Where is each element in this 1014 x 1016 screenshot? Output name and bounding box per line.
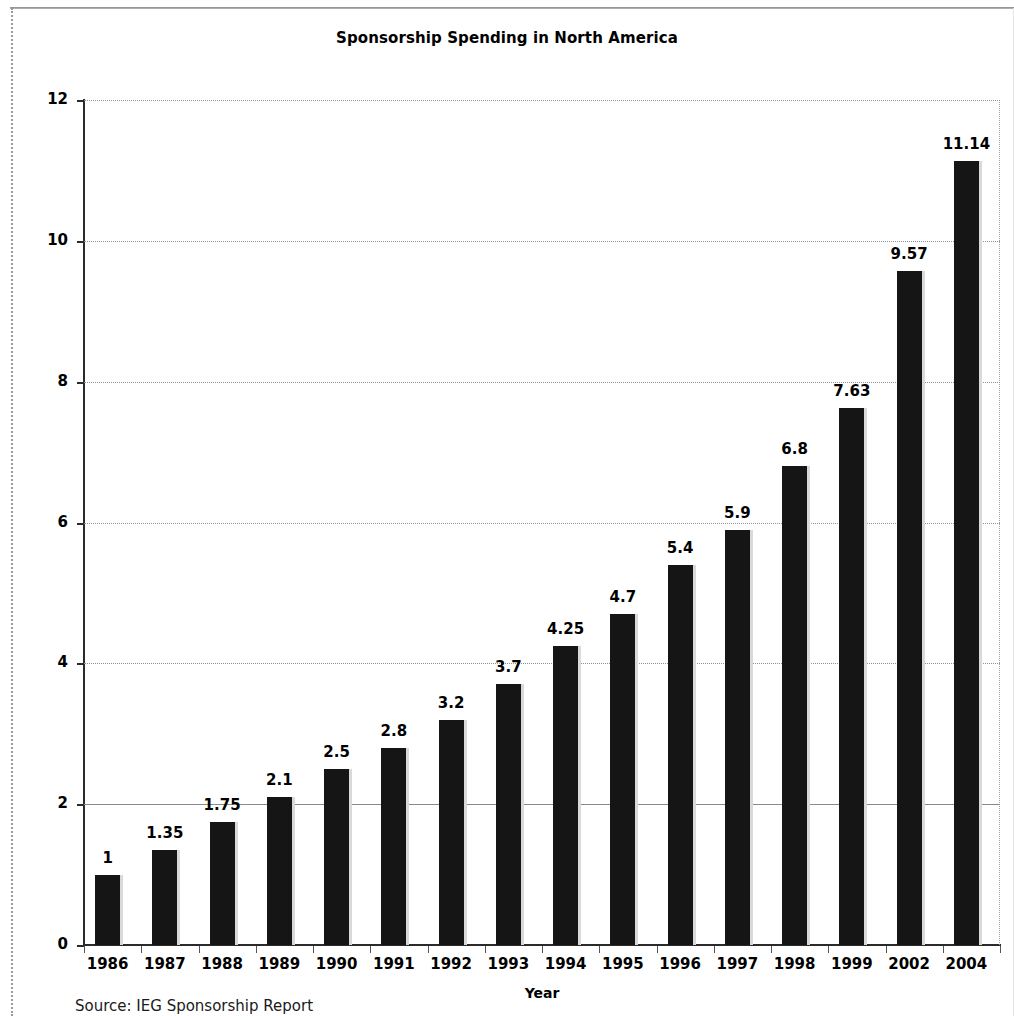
x-axis-tick-mark [199,946,200,953]
bar [725,530,750,945]
bar-value-label: 3.7 [468,658,548,676]
x-axis-tick-mark [886,946,887,953]
x-axis-tick-mark [84,946,85,953]
x-axis-tick-mark [542,946,543,953]
y-axis-tick-label: 4 [16,653,68,671]
bar-value-label: 6.8 [755,440,835,458]
bar [897,271,922,945]
source-note: Source: IEG Sponsorship Report [75,997,313,1015]
bar-value-label: 2.8 [354,722,434,740]
x-axis-tick-mark [428,946,429,953]
x-axis-tick-mark [256,946,257,953]
y-axis-tick-mark [77,523,84,525]
bar-value-label: 1.35 [125,824,205,842]
bar-value-label: 5.4 [640,539,720,557]
bar [668,565,693,945]
bar-value-label: 1 [68,849,148,867]
y-axis-tick-mark [77,241,84,243]
bar [381,748,406,945]
bar [496,684,521,945]
y-axis-tick-label: 2 [16,794,68,812]
bar-value-label: 11.14 [926,135,1006,153]
y-axis-tick-label: 0 [16,935,68,953]
x-axis-tick-mark [599,946,600,953]
bar-value-label: 1.75 [182,796,262,814]
bar-value-label: 9.57 [869,245,949,263]
bar [324,769,349,945]
x-axis-tick-label: 2004 [926,955,1006,973]
y-axis-tick-label: 12 [16,90,68,108]
bar [210,822,235,945]
bar-value-label: 2.1 [239,771,319,789]
x-axis-tick-mark [1000,946,1001,953]
bar-value-label: 4.25 [526,620,606,638]
bar-value-label: 2.5 [297,743,377,761]
gridline [84,241,1000,242]
bar-value-label: 5.9 [697,504,777,522]
bar [152,850,177,945]
x-axis-tick-mark [657,946,658,953]
page-title: Sponsorship Spending in North America [0,29,1014,47]
x-axis-tick-mark [141,946,142,953]
bar-value-label: 4.7 [583,588,663,606]
bar [782,466,807,945]
x-axis-tick-mark [828,946,829,953]
plot-area: 11.351.752.12.52.83.23.74.254.75.45.96.8… [84,100,1000,945]
gridline [84,100,1000,101]
x-axis-tick-mark [714,946,715,953]
bar-value-label: 7.63 [812,382,892,400]
y-axis-tick-label: 8 [16,372,68,390]
bar [954,161,979,945]
x-axis-tick-mark [771,946,772,953]
bar [839,408,864,945]
y-axis-tick-mark [77,382,84,384]
bar-value-label: 3.2 [411,694,491,712]
bar [95,875,120,945]
y-axis-tick-mark [77,945,84,947]
bar [267,797,292,945]
x-axis-tick-mark [370,946,371,953]
page-top-rule [10,7,1014,9]
y-axis-tick-mark [77,663,84,665]
y-axis-tick-mark [77,804,84,806]
bar [439,720,464,945]
y-axis-tick-mark [77,100,84,102]
x-axis-tick-mark [313,946,314,953]
bar [610,614,635,945]
y-axis-tick-label: 10 [16,231,68,249]
y-axis-tick-label: 6 [16,513,68,531]
x-axis-tick-mark [485,946,486,953]
bar [553,646,578,945]
x-axis-tick-mark [943,946,944,953]
page-left-margin-rule [11,8,13,1016]
scanned-page: Sponsorship Spending in North America Bi… [0,0,1014,1016]
